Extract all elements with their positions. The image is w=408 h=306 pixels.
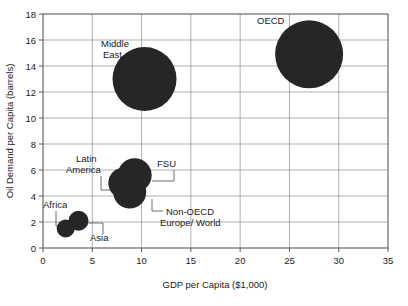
- y-axis-tick-labels: 024681012141618: [25, 9, 36, 254]
- x-tick-label: 5: [90, 255, 95, 266]
- x-tick-label: 10: [136, 255, 147, 266]
- x-tick-label: 20: [235, 255, 246, 266]
- y-tick-label: 8: [31, 139, 36, 150]
- label-non-oecd-line1: Non-OECD: [166, 206, 214, 217]
- y-axis-title: Oil Demand per Capita (barrels): [4, 64, 15, 199]
- label-middle-east-line2: East: [103, 49, 122, 60]
- y-tick-label: 4: [31, 191, 36, 202]
- y-tick-label: 6: [31, 165, 36, 176]
- label-latin-america-line1: Latin: [76, 153, 97, 164]
- y-tick-label: 0: [31, 243, 36, 254]
- y-tick-label: 12: [25, 87, 36, 98]
- data-bubble: [113, 47, 177, 111]
- label-latin-america-line2: America: [66, 164, 102, 175]
- x-tick-label: 15: [186, 255, 197, 266]
- x-tick-label: 35: [383, 255, 394, 266]
- y-tick-label: 2: [31, 217, 36, 228]
- y-tick-label: 14: [25, 61, 36, 72]
- label-non-oecd-line2: Europe/ World: [160, 217, 221, 228]
- y-tick-label: 16: [25, 35, 36, 46]
- chart-svg: 05101520253035 024681012141618 OECD Midd…: [0, 0, 408, 306]
- label-middle-east-line1: Middle: [101, 38, 129, 49]
- x-axis-tick-labels: 05101520253035: [40, 255, 393, 266]
- label-oecd: OECD: [257, 15, 285, 26]
- data-bubble: [108, 168, 139, 199]
- data-bubble: [275, 20, 343, 88]
- y-tick-label: 10: [25, 113, 36, 124]
- x-tick-label: 25: [284, 255, 295, 266]
- bubble-chart: 05101520253035 024681012141618 OECD Midd…: [0, 0, 408, 306]
- label-asia: Asia: [90, 232, 109, 243]
- label-africa: Africa: [43, 199, 68, 210]
- label-fsu: FSU: [157, 158, 176, 169]
- x-axis-title: GDP per Capita ($1,000): [163, 279, 268, 290]
- y-tick-label: 18: [25, 9, 36, 20]
- x-tick-label: 0: [40, 255, 45, 266]
- data-bubble: [57, 220, 75, 238]
- x-tick-label: 30: [333, 255, 344, 266]
